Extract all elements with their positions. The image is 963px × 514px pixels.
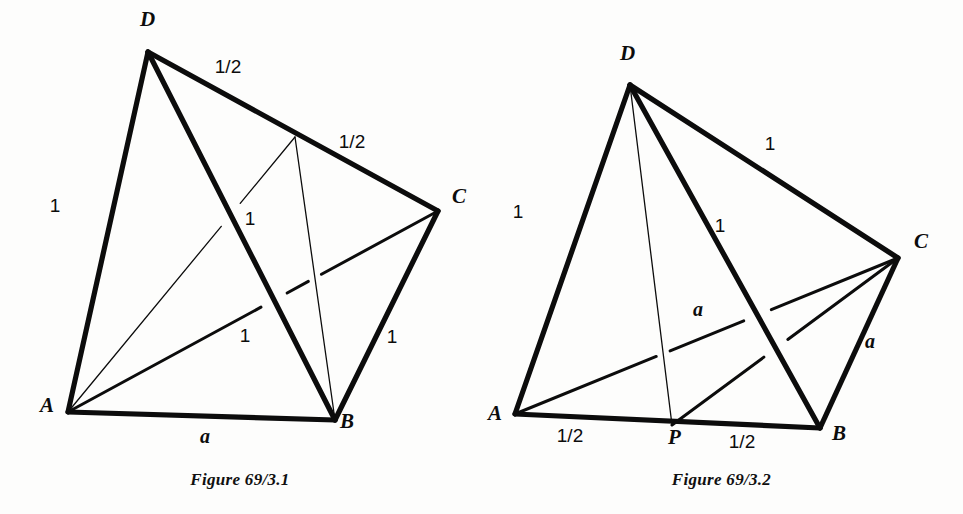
measure-AB: a: [200, 425, 210, 447]
edge-DB: [630, 85, 820, 428]
edge-AM-seg-1: [240, 137, 295, 203]
figure-page: ABCD11/21/2111a Figure 69/3.1 APBCD111aa…: [0, 0, 963, 514]
figure-69-3-1: ABCD11/21/2111a Figure 69/3.1: [0, 0, 480, 514]
measure-DB: 1: [715, 215, 726, 236]
measure-CB: a: [865, 330, 875, 352]
edge-AC-seg-0: [68, 307, 261, 412]
edge-AD: [515, 85, 630, 414]
vertex-label-d: D: [619, 41, 635, 65]
edge-PC-seg-0: [672, 357, 764, 425]
edge-DC: [630, 85, 898, 258]
measure-AC: a: [693, 298, 703, 320]
measure-AD: 1: [513, 201, 524, 222]
figure-69-3-1-caption: Figure 69/3.1: [0, 470, 480, 490]
measure-DM: 1/2: [215, 56, 241, 77]
vertex-label-a: A: [38, 393, 54, 417]
measure-AM: 1: [245, 208, 256, 229]
edge-AC-seg-1: [287, 281, 308, 293]
figure-69-3-1-drawing: ABCD11/21/2111a: [0, 0, 480, 470]
measure-CB: 1: [387, 326, 398, 347]
measure-PB: 1/2: [729, 431, 755, 452]
measure-AC: 1: [240, 325, 251, 346]
vertex-label-c: C: [914, 229, 929, 253]
measure-DC: 1: [765, 133, 776, 154]
vertex-label-p: P: [667, 425, 681, 449]
edge-DP: [630, 85, 672, 425]
edge-AC-seg-0: [515, 356, 656, 414]
measure-AD: 1: [50, 195, 61, 216]
measure-AP: 1/2: [557, 425, 583, 446]
vertex-label-b: B: [339, 409, 354, 433]
vertex-label-d: D: [139, 7, 155, 31]
figure-69-3-2-drawing: APBCD111aa1/21/2: [480, 0, 963, 470]
vertex-label-b: B: [831, 421, 846, 445]
edge-AC-seg-1: [670, 321, 744, 351]
edge-AB: [68, 412, 335, 420]
edge-DB: [148, 52, 335, 420]
vertex-label-a: A: [486, 401, 502, 425]
vertex-label-c: C: [452, 184, 467, 208]
edge-CB: [335, 211, 438, 420]
edge-AD: [68, 52, 148, 412]
figure-69-3-2: APBCD111aa1/21/2 Figure 69/3.2: [480, 0, 963, 514]
figure-69-3-2-caption: Figure 69/3.2: [480, 470, 963, 490]
edge-DC: [148, 52, 438, 211]
measure-MC: 1/2: [339, 131, 365, 152]
